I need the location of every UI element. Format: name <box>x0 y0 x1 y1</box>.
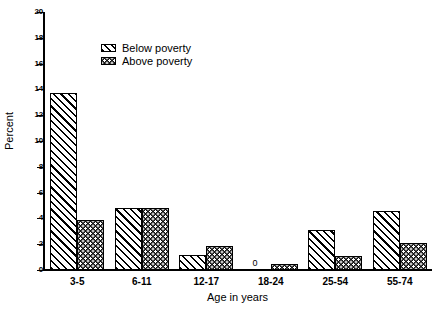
y-tick-label: 6 <box>13 189 43 197</box>
bar-group: 0 <box>239 12 304 270</box>
bar-group-bars <box>303 12 368 270</box>
legend-label: Above poverty <box>122 55 192 67</box>
y-tick-label: 20 <box>13 8 43 16</box>
x-tick-label: 25-54 <box>303 276 368 287</box>
legend-label: Below poverty <box>122 42 191 54</box>
bar[interactable] <box>206 246 233 271</box>
x-axis-tick-labels: 3-56-1112-1718-2425-5455-74 <box>45 276 432 287</box>
bar[interactable] <box>77 220 104 270</box>
bar[interactable] <box>115 208 142 270</box>
bar[interactable] <box>308 230 335 270</box>
bar-group <box>368 12 433 270</box>
x-axis-title: Age in years <box>43 291 432 303</box>
zero-value-annotation: 0 <box>253 259 258 268</box>
bar[interactable] <box>50 93 77 270</box>
bar-group-bars <box>368 12 433 270</box>
y-tick-label: 8 <box>13 163 43 171</box>
figure: 02468101214161820 Percent 0 3-56-1112-17… <box>0 0 437 319</box>
y-tick-label: 12 <box>13 111 43 119</box>
y-axis-title: Percent <box>3 91 15 171</box>
x-tick-label: 18-24 <box>239 276 304 287</box>
y-tick-label: 0 <box>13 266 43 274</box>
bar-group <box>303 12 368 270</box>
y-tick-label: 10 <box>13 137 43 145</box>
bar[interactable] <box>179 255 206 270</box>
legend-item[interactable]: Below poverty <box>101 41 241 54</box>
x-tick-label: 3-5 <box>45 276 110 287</box>
bar[interactable] <box>271 264 298 270</box>
legend-swatch <box>101 44 116 52</box>
legend-swatch <box>101 57 116 65</box>
y-tick-label: 16 <box>13 60 43 68</box>
y-tick-label: 14 <box>13 85 43 93</box>
y-tick-label: 4 <box>13 214 43 222</box>
bar-group-bars <box>45 12 110 270</box>
bar-group-bars: 0 <box>239 12 304 270</box>
x-tick-label: 12-17 <box>174 276 239 287</box>
bar-group <box>45 12 110 270</box>
y-tick-label: 2 <box>13 240 43 248</box>
x-tick-label: 6-11 <box>110 276 175 287</box>
legend-item[interactable]: Above poverty <box>101 54 241 67</box>
bar[interactable] <box>335 256 362 270</box>
y-tick-label: 18 <box>13 34 43 42</box>
bar[interactable] <box>400 243 427 270</box>
bar[interactable] <box>373 211 400 270</box>
legend: Below povertyAbove poverty <box>101 41 241 67</box>
x-tick-label: 55-74 <box>368 276 433 287</box>
bar[interactable] <box>142 208 169 270</box>
